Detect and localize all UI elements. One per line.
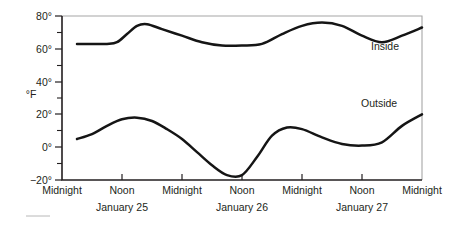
- date-label: January 26: [216, 201, 268, 213]
- series-line-outside: [77, 114, 422, 176]
- y-tick-label: 20°: [36, 108, 52, 120]
- x-tick-label: Noon: [229, 184, 254, 196]
- x-axis-date-labels: January 25 January 26 January 27: [96, 201, 388, 213]
- x-tick-label: Midnight: [42, 184, 82, 196]
- series-label-inside: Inside: [371, 40, 399, 52]
- y-tick-label: 80°: [36, 10, 52, 22]
- y-tick-label: 0°: [42, 141, 52, 153]
- x-tick-label: Midnight: [402, 184, 442, 196]
- date-label: January 25: [96, 201, 148, 213]
- x-tick-label: Midnight: [162, 184, 202, 196]
- x-tick-label: Noon: [349, 184, 374, 196]
- x-axis-tick-labels: Midnight Noon Midnight Noon Midnight Noo…: [42, 184, 442, 196]
- series-label-outside: Outside: [361, 97, 397, 109]
- y-tick-label: 60°: [36, 43, 52, 55]
- chart-canvas: 80° 60° 40° 20° 0° −20° °F Midnight Noon…: [0, 0, 464, 225]
- date-label: January 27: [336, 201, 388, 213]
- y-tick-label: 40°: [36, 76, 52, 88]
- temperature-chart: 80° 60° 40° 20° 0° −20° °F Midnight Noon…: [0, 0, 464, 225]
- y-axis-title: °F: [26, 88, 37, 100]
- x-tick-label: Midnight: [282, 184, 322, 196]
- x-tick-label: Noon: [109, 184, 134, 196]
